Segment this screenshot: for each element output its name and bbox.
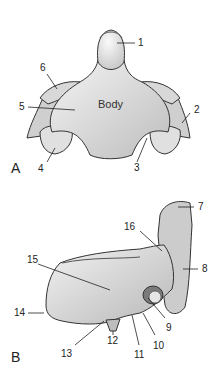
label-16: 16 [124,222,135,232]
panel-letter-b: B [11,349,20,365]
label-13: 13 [61,349,72,359]
label-1: 1 [138,38,144,48]
label-2: 2 [194,105,200,115]
label-6: 6 [40,63,46,73]
label-12: 12 [107,336,118,346]
label-8: 8 [202,264,208,274]
label-3: 3 [134,163,140,173]
label-7: 7 [198,202,204,212]
label-10: 10 [153,341,164,351]
vertebra-anterior-illustration [0,0,220,185]
body-label: Body [98,98,123,110]
label-4: 4 [38,164,44,174]
label-5: 5 [19,102,25,112]
label-15: 15 [27,255,38,265]
panel-b: 7 8 9 10 11 12 13 14 15 16 B [0,185,220,369]
panel-letter-a: A [11,160,20,176]
label-11: 11 [134,350,144,360]
label-9: 9 [166,323,172,333]
label-14: 14 [14,308,25,318]
panel-a: 1 2 3 4 5 6 Body A [0,0,220,185]
